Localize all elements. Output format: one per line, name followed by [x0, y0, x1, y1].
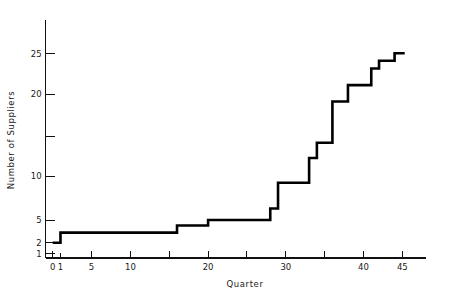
y-tick-label: 25 — [31, 49, 42, 59]
y-tick-label: 5 — [36, 215, 41, 225]
x-tick-label: 30 — [280, 262, 291, 272]
x-tick-label: 10 — [125, 262, 136, 272]
y-tick-label: 2 — [36, 238, 41, 248]
x-axis-ticks — [53, 251, 403, 258]
x-tick-label: 0 — [50, 262, 55, 272]
step-series — [53, 53, 405, 242]
supplier-step-chart: 125102025 0510203040451 Quarter Number o… — [0, 0, 451, 294]
x-tick-label: 40 — [358, 262, 369, 272]
y-axis-title: Number of Suppliers — [6, 91, 16, 190]
y-axis-ticks — [46, 53, 55, 253]
x-tick-label: 45 — [397, 262, 408, 272]
x-axis-tick-labels: 0510203040451 — [50, 262, 408, 272]
y-tick-label: 20 — [31, 89, 42, 99]
chart-axes — [46, 20, 426, 258]
x-tick-label: 5 — [89, 262, 94, 272]
x-tick-label: 1 — [58, 262, 63, 272]
y-axis-tick-labels: 125102025 — [31, 49, 42, 259]
y-tick-label: 1 — [36, 249, 41, 259]
cumulative-suppliers-step-line — [53, 53, 405, 242]
x-axis-title: Quarter — [226, 279, 263, 289]
x-tick-label: 20 — [203, 262, 214, 272]
y-tick-label: 10 — [31, 171, 42, 181]
chart-plot-area: 125102025 0510203040451 Quarter Number o… — [0, 0, 451, 294]
